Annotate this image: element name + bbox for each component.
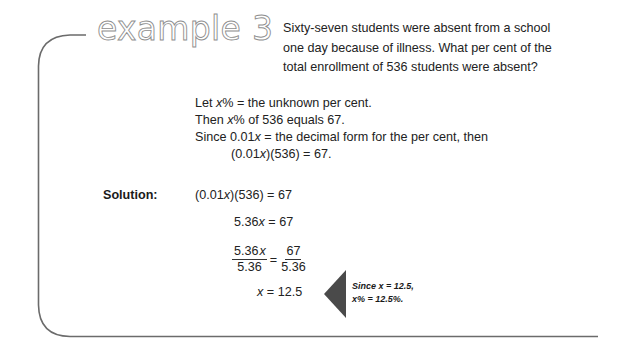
problem-line: total enrollment of 536 students were ab… <box>283 58 613 78</box>
setup-line-2: Then x% of 536 equals 67. <box>195 112 488 129</box>
problem-line: one day because of illness. What per cen… <box>283 39 613 59</box>
solution-step-3-fraction: 5.36x 5.36 = 67 5.36 <box>232 244 307 275</box>
setup-line-1: Let x% = the unknown per cent. <box>195 95 488 112</box>
left-fraction: 5.36x 5.36 <box>232 244 267 275</box>
problem-line: Sixty-seven students were absent from a … <box>283 19 613 39</box>
setup-line-4: (0.01x)(536) = 67. <box>195 146 488 163</box>
example-title: example 3 <box>97 9 273 48</box>
equals-sign: = <box>267 253 280 267</box>
pointer-triangle-icon <box>324 270 346 318</box>
problem-statement: Sixty-seven students were absent from a … <box>283 19 613 78</box>
right-fraction: 67 5.36 <box>280 244 307 275</box>
solution-step-2: 5.36x = 67 <box>234 215 293 229</box>
solution-label: Solution: <box>103 188 158 202</box>
note-line-2: x% = 12.5%. <box>352 293 414 306</box>
solution-step-1: (0.01x)(536) = 67 <box>195 188 292 202</box>
right-numerator: 67 <box>285 244 301 260</box>
setup-line-3: Since 0.01x = the decimal form for the p… <box>195 129 488 146</box>
solution-step-4: x = 12.5 <box>257 285 302 299</box>
left-numerator: 5.36x <box>232 244 267 260</box>
margin-note: Since x = 12.5, x% = 12.5%. <box>352 280 414 305</box>
left-denominator: 5.36 <box>236 260 263 275</box>
right-denominator: 5.36 <box>280 260 307 275</box>
note-line-1: Since x = 12.5, <box>352 280 414 293</box>
setup-block: Let x% = the unknown per cent. Then x% o… <box>195 95 488 163</box>
